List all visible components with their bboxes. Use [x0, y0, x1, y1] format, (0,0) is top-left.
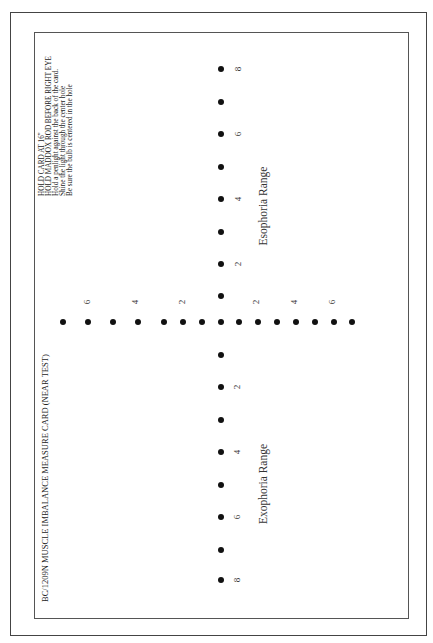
dot	[218, 164, 224, 170]
tick-label: 2	[177, 300, 187, 305]
dot	[236, 319, 242, 325]
tick-label: 6	[327, 300, 337, 305]
tick-label: 8	[232, 578, 242, 583]
card-border	[34, 32, 409, 619]
tick-label: 6	[82, 300, 92, 305]
dot	[218, 384, 224, 390]
dot	[218, 99, 224, 105]
dot	[293, 319, 299, 325]
dot	[110, 319, 116, 325]
esophoria-range-label: Esophoria Range	[257, 167, 269, 246]
dot	[349, 319, 355, 325]
dot	[218, 417, 224, 423]
center-dot	[218, 319, 224, 325]
dot	[331, 319, 337, 325]
tick-label: 2	[233, 262, 243, 267]
dot	[60, 319, 66, 325]
dot	[180, 319, 186, 325]
dot	[218, 293, 224, 299]
dot	[218, 482, 224, 488]
tick-label: 4	[233, 197, 243, 202]
tick-label: 6	[232, 515, 242, 520]
exophoria-range-label: Exophoria Range	[257, 444, 269, 524]
dot	[218, 196, 224, 202]
dot	[312, 319, 318, 325]
dot	[218, 131, 224, 137]
tick-label: 8	[233, 67, 243, 72]
dot	[199, 319, 205, 325]
tick-label: 4	[232, 450, 242, 455]
dot	[161, 319, 167, 325]
tick-label: 2	[251, 300, 261, 305]
dot	[85, 319, 91, 325]
instruction-line: Be sure the bulb is centered in the hole	[67, 84, 74, 196]
tick-label: 4	[130, 300, 140, 305]
dot	[218, 261, 224, 267]
dot	[218, 577, 224, 583]
dot	[218, 66, 224, 72]
dot	[218, 229, 224, 235]
dot	[135, 319, 141, 325]
tick-label: 4	[289, 300, 299, 305]
dot	[255, 319, 261, 325]
dot	[218, 449, 224, 455]
dot	[218, 514, 224, 520]
dot	[218, 352, 224, 358]
tick-label: 2	[232, 385, 242, 390]
dot	[274, 319, 280, 325]
card-title: BC/1209N MUSCLE IMBALANCE MEASURE CARD (…	[40, 354, 50, 602]
tick-label: 6	[233, 132, 243, 137]
dot	[218, 547, 224, 553]
